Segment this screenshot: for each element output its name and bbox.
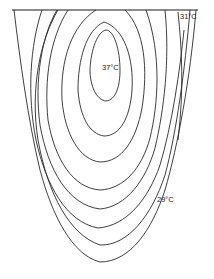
isotherm-diagram: 37°C 31°C 29°C	[0, 0, 214, 279]
contour-plot	[0, 0, 214, 279]
label-31c: 31°C	[180, 13, 197, 21]
label-29c: 29°C	[157, 196, 174, 204]
contour-4	[38, 10, 167, 209]
contour-7	[78, 22, 132, 136]
label-37c: 37°C	[102, 64, 119, 72]
